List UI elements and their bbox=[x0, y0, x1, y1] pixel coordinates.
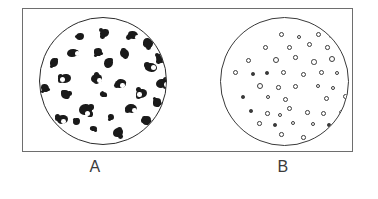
colony-a bbox=[143, 38, 153, 48]
colony-a bbox=[116, 79, 126, 88]
colony-lobe bbox=[61, 90, 65, 94]
panel-a bbox=[23, 9, 188, 153]
colony-b bbox=[316, 32, 321, 37]
colony-a bbox=[156, 79, 167, 88]
panel-label-b: B bbox=[253, 158, 313, 176]
colony-lobe bbox=[123, 54, 127, 58]
colony-b bbox=[257, 121, 262, 126]
colony-b bbox=[291, 121, 295, 125]
colony-a bbox=[61, 90, 70, 99]
colony-a bbox=[76, 33, 84, 40]
colony-lobe bbox=[159, 102, 163, 106]
colony-b bbox=[329, 34, 333, 38]
colony-lobe bbox=[118, 134, 123, 139]
colony-lobe bbox=[47, 88, 51, 92]
colony-b bbox=[273, 57, 279, 63]
colony-b bbox=[329, 56, 335, 62]
colony-b bbox=[287, 45, 292, 50]
colony-a bbox=[50, 58, 58, 67]
colony-lobe bbox=[100, 52, 104, 56]
colony-b bbox=[266, 95, 270, 99]
colony-b bbox=[297, 35, 301, 39]
panel-label-a: A bbox=[65, 158, 125, 176]
figure-root: A B bbox=[0, 0, 378, 199]
colony-b bbox=[241, 95, 245, 99]
colony-b bbox=[325, 45, 330, 50]
colony-a bbox=[100, 29, 109, 37]
colony-lobe bbox=[108, 58, 112, 62]
colony-lobe bbox=[55, 58, 59, 62]
colony-b bbox=[257, 83, 263, 89]
colony-a bbox=[79, 104, 91, 115]
colony-a bbox=[153, 98, 161, 107]
colony-highlight bbox=[120, 83, 125, 88]
colony-b bbox=[283, 97, 288, 102]
colony-a bbox=[91, 74, 102, 83]
colony-lobe bbox=[147, 120, 151, 124]
colony-b bbox=[279, 32, 284, 37]
colony-b bbox=[339, 110, 344, 115]
colony-lobe bbox=[94, 72, 99, 77]
colony-highlight bbox=[137, 92, 142, 97]
colony-b bbox=[301, 135, 306, 140]
colony-b bbox=[311, 122, 315, 126]
colony-b bbox=[273, 123, 277, 127]
colony-a bbox=[128, 31, 138, 39]
colony-b bbox=[276, 85, 281, 90]
colony-lobe bbox=[67, 91, 71, 95]
colony-b bbox=[324, 96, 329, 101]
colony-b bbox=[263, 45, 268, 50]
colony-b bbox=[321, 111, 326, 116]
colony-lobe bbox=[148, 39, 153, 44]
colony-b bbox=[345, 57, 349, 63]
colony-a bbox=[113, 128, 123, 137]
colony-lobe bbox=[104, 94, 107, 97]
panel-b bbox=[188, 9, 354, 153]
colony-a bbox=[126, 104, 137, 113]
colony-lobe bbox=[117, 127, 122, 132]
colony-highlight bbox=[75, 51, 80, 56]
colony-lobe bbox=[158, 57, 162, 61]
colony-a bbox=[120, 49, 129, 58]
colony-a bbox=[104, 58, 113, 68]
petri-dish-b bbox=[220, 17, 349, 146]
colony-lobe bbox=[142, 116, 146, 120]
colony-b bbox=[293, 55, 298, 60]
colony-highlight bbox=[97, 78, 102, 83]
colony-highlight bbox=[164, 82, 167, 87]
colony-b bbox=[281, 70, 286, 75]
colony-b bbox=[338, 30, 343, 35]
colony-b bbox=[343, 94, 348, 99]
colony-b bbox=[251, 72, 255, 76]
colony-a bbox=[73, 118, 80, 125]
colony-highlight bbox=[60, 77, 65, 82]
colony-a bbox=[136, 89, 147, 98]
colony-b bbox=[327, 123, 331, 127]
colony-a bbox=[90, 126, 97, 131]
colony-b bbox=[316, 84, 320, 88]
colony-highlight bbox=[151, 65, 156, 70]
colony-lobe bbox=[121, 48, 125, 52]
colony-a bbox=[145, 63, 157, 72]
colony-b bbox=[342, 42, 347, 47]
colony-highlight bbox=[85, 111, 90, 116]
colony-b bbox=[278, 113, 282, 117]
colony-lobe bbox=[108, 118, 111, 121]
colony-lobe bbox=[99, 28, 103, 32]
colony-highlight bbox=[135, 35, 140, 40]
colony-a bbox=[94, 48, 102, 56]
colony-b bbox=[279, 132, 284, 137]
colony-lobe bbox=[90, 127, 93, 130]
petri-dish-a bbox=[39, 17, 167, 145]
colony-a bbox=[57, 115, 68, 124]
colony-b bbox=[301, 72, 306, 77]
colony-lobe bbox=[76, 118, 79, 121]
colony-a bbox=[100, 92, 107, 97]
colony-b bbox=[246, 58, 251, 63]
colony-lobe bbox=[50, 65, 54, 69]
colony-lobe bbox=[127, 34, 132, 39]
colony-b bbox=[265, 71, 269, 75]
colony-a bbox=[60, 74, 71, 83]
colony-b bbox=[265, 111, 270, 116]
colony-b bbox=[307, 42, 312, 47]
